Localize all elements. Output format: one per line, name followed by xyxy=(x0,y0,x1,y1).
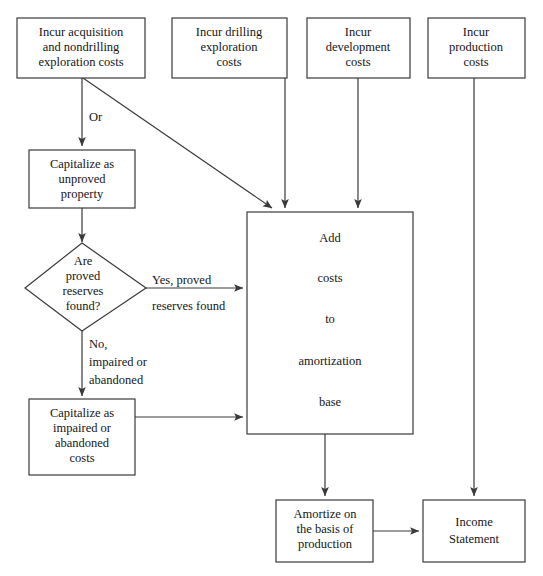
node-capitalize-impaired[interactable]: Capitalize as impaired or abandoned cost… xyxy=(29,399,135,475)
node-amortization-base-line-3: to xyxy=(325,312,335,326)
node-amortization-base[interactable]: Add costs to amortization base xyxy=(247,212,413,434)
node-incur-production-line-3: costs xyxy=(464,55,489,69)
node-incur-production-line-2: production xyxy=(449,40,504,54)
node-proved-reserves-decision-line-2: proved xyxy=(66,269,101,283)
edge-label-yes-proved-line-2: reserves found xyxy=(152,299,226,313)
edge-label-or-text: Or xyxy=(89,110,103,124)
node-income-statement-line-1: Income xyxy=(455,515,493,529)
node-capitalize-unproved-line-1: Capitalize as xyxy=(50,157,114,171)
node-capitalize-unproved-line-3: property xyxy=(61,187,104,201)
node-incur-drilling-line-3: costs xyxy=(217,55,242,69)
node-amortize-production-line-2: the basis of xyxy=(297,522,355,536)
node-income-statement-line-2: Statement xyxy=(449,532,500,546)
node-capitalize-impaired-line-1: Capitalize as xyxy=(50,406,114,420)
edge-label-no-impaired-line-3: abandoned xyxy=(89,373,144,387)
node-incur-acquisition-line-3: exploration costs xyxy=(38,55,123,69)
flowchart-canvas: Incur acquisition and nondrilling explor… xyxy=(0,0,543,576)
node-capitalize-unproved[interactable]: Capitalize as unproved property xyxy=(29,150,135,208)
node-capitalize-impaired-line-4: costs xyxy=(70,451,95,465)
node-incur-acquisition-line-2: and nondrilling xyxy=(43,40,120,54)
node-incur-acquisition[interactable]: Incur acquisition and nondrilling explor… xyxy=(17,18,145,78)
node-incur-production-line-1: Incur xyxy=(463,25,490,39)
node-incur-production[interactable]: Incur production costs xyxy=(428,18,525,78)
node-amortization-base-line-1: Add xyxy=(319,231,341,245)
node-incur-development-line-2: development xyxy=(326,40,391,54)
edge-label-yes-proved-line-1: Yes, proved xyxy=(152,273,212,287)
node-amortize-production-line-3: production xyxy=(298,537,353,551)
flowchart-diagram: Incur acquisition and nondrilling explor… xyxy=(0,0,543,576)
node-capitalize-unproved-line-2: unproved xyxy=(58,172,106,186)
node-incur-acquisition-line-1: Incur acquisition xyxy=(39,25,124,39)
node-incur-development-line-3: costs xyxy=(346,55,371,69)
edge-label-no-impaired-line-2: impaired or xyxy=(89,355,148,369)
node-amortize-production[interactable]: Amortize on the basis of production xyxy=(276,500,373,562)
node-proved-reserves-decision-line-1: Are xyxy=(74,254,93,268)
node-capitalize-impaired-line-3: abandoned xyxy=(55,436,110,450)
node-incur-drilling[interactable]: Incur drilling exploration costs xyxy=(172,18,287,78)
node-proved-reserves-decision-line-4: found? xyxy=(66,299,101,313)
node-amortization-base-line-5: base xyxy=(319,395,342,409)
edge-label-no-impaired-line-1: No, xyxy=(89,337,107,351)
node-amortize-production-line-1: Amortize on xyxy=(294,507,358,521)
node-incur-drilling-line-1: Incur drilling xyxy=(196,25,263,39)
node-incur-development-line-1: Incur xyxy=(345,25,372,39)
edge-label-or: Or xyxy=(89,110,103,124)
edge-label-yes-proved: Yes, proved reserves found xyxy=(152,273,226,313)
node-incur-development[interactable]: Incur development costs xyxy=(307,18,410,78)
node-proved-reserves-decision[interactable]: Are proved reserves found? xyxy=(25,243,146,331)
node-income-statement[interactable]: Income Statement xyxy=(423,500,525,562)
node-incur-drilling-line-2: exploration xyxy=(201,40,259,54)
node-amortization-base-line-4: amortization xyxy=(298,354,362,368)
edge-label-no-impaired: No, impaired or abandoned xyxy=(89,337,148,387)
node-proved-reserves-decision-line-3: reserves xyxy=(63,284,104,298)
node-amortization-base-line-2: costs xyxy=(318,271,343,285)
node-capitalize-impaired-line-2: impaired or xyxy=(53,421,112,435)
